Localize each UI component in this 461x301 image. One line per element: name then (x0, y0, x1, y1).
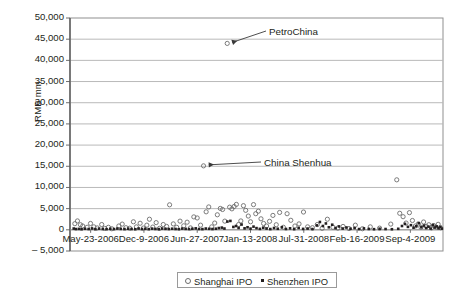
data-point (232, 226, 235, 229)
data-point (201, 228, 204, 231)
data-point (293, 228, 296, 231)
annotation-leader-china-shenhua (209, 162, 261, 165)
data-point (137, 227, 140, 230)
data-point (425, 227, 428, 230)
data-point (109, 228, 112, 231)
data-point (198, 223, 202, 227)
data-point (384, 228, 387, 231)
data-point (285, 228, 288, 231)
data-point (278, 210, 282, 214)
data-point (119, 228, 122, 231)
data-point (131, 220, 135, 224)
data-point (345, 226, 348, 229)
data-point (178, 228, 181, 231)
data-point (269, 228, 272, 231)
data-point (319, 221, 322, 224)
data-point (164, 228, 167, 231)
data-point (404, 223, 407, 226)
data-point (422, 220, 426, 224)
data-point (407, 226, 410, 229)
data-point (289, 227, 292, 230)
data-point (249, 227, 252, 230)
data-point (174, 228, 177, 231)
data-point (116, 227, 119, 230)
data-point (341, 227, 344, 230)
data-point (127, 227, 130, 230)
annotation-leader-petrochina (232, 31, 266, 42)
ipo-scatter-chart: RMB mm 50,00045,00040,00035,00030,00025,… (0, 0, 461, 301)
data-point (182, 224, 186, 228)
data-point (289, 218, 293, 222)
data-point (229, 220, 232, 223)
data-point (88, 221, 92, 225)
data-point (147, 228, 150, 231)
data-point (262, 226, 265, 229)
data-point (94, 228, 97, 231)
data-point (223, 227, 226, 230)
data-point (204, 227, 207, 230)
data-point (161, 227, 164, 230)
data-point (254, 212, 258, 216)
legend-item-shenzhen-ipo: Shenzhen IPO (261, 275, 328, 287)
data-point (367, 228, 370, 231)
data-point (276, 227, 279, 230)
data-point (243, 227, 246, 230)
legend: Shanghai IPO Shenzhen IPO (177, 272, 337, 288)
data-point (281, 226, 284, 229)
data-point (395, 178, 399, 182)
data-point (167, 203, 171, 207)
data-point (191, 227, 194, 230)
annotation-china-shenhua: China Shenhua (264, 157, 332, 168)
data-point (441, 227, 444, 230)
legend-item-shanghai-ipo: Shanghai IPO (185, 275, 252, 287)
data-point (178, 219, 182, 223)
data-point (130, 228, 133, 231)
data-point (181, 227, 184, 230)
data-point (215, 227, 218, 230)
data-point (215, 213, 219, 217)
data-point (134, 228, 137, 231)
data-point (325, 217, 329, 221)
data-point (221, 226, 224, 229)
data-point (188, 228, 191, 231)
data-point (120, 222, 124, 226)
data-point (171, 222, 175, 226)
data-point (398, 211, 402, 215)
data-point (91, 227, 94, 230)
data-point (265, 227, 268, 230)
data-point (98, 227, 101, 230)
data-point (401, 215, 405, 219)
open-circle-marker-icon (185, 278, 191, 284)
data-point (138, 221, 142, 225)
data-point (358, 228, 361, 231)
data-point (338, 225, 341, 228)
data-point (204, 210, 208, 214)
data-point (378, 227, 381, 230)
data-point (84, 227, 87, 230)
data-point (80, 228, 83, 231)
data-point (240, 223, 243, 226)
data-point (328, 226, 331, 229)
data-point (256, 209, 260, 213)
data-point (415, 225, 418, 228)
data-point (102, 228, 105, 231)
data-point (185, 220, 189, 224)
data-point (432, 224, 435, 227)
data-point (255, 227, 258, 230)
data-point (184, 228, 187, 231)
data-point (334, 227, 337, 230)
series-shanghai-ipo (73, 41, 443, 231)
data-point (373, 228, 376, 231)
data-point (316, 224, 319, 227)
x-axis-tick-label: Sep-4-2009 (376, 234, 444, 244)
data-point (353, 223, 357, 227)
data-point (297, 227, 300, 230)
data-point (239, 219, 243, 223)
data-point (407, 211, 411, 215)
data-point (389, 222, 393, 226)
data-point (285, 212, 289, 216)
data-point (322, 225, 325, 228)
data-point (273, 227, 276, 230)
data-point (302, 228, 305, 231)
data-point (259, 217, 263, 221)
